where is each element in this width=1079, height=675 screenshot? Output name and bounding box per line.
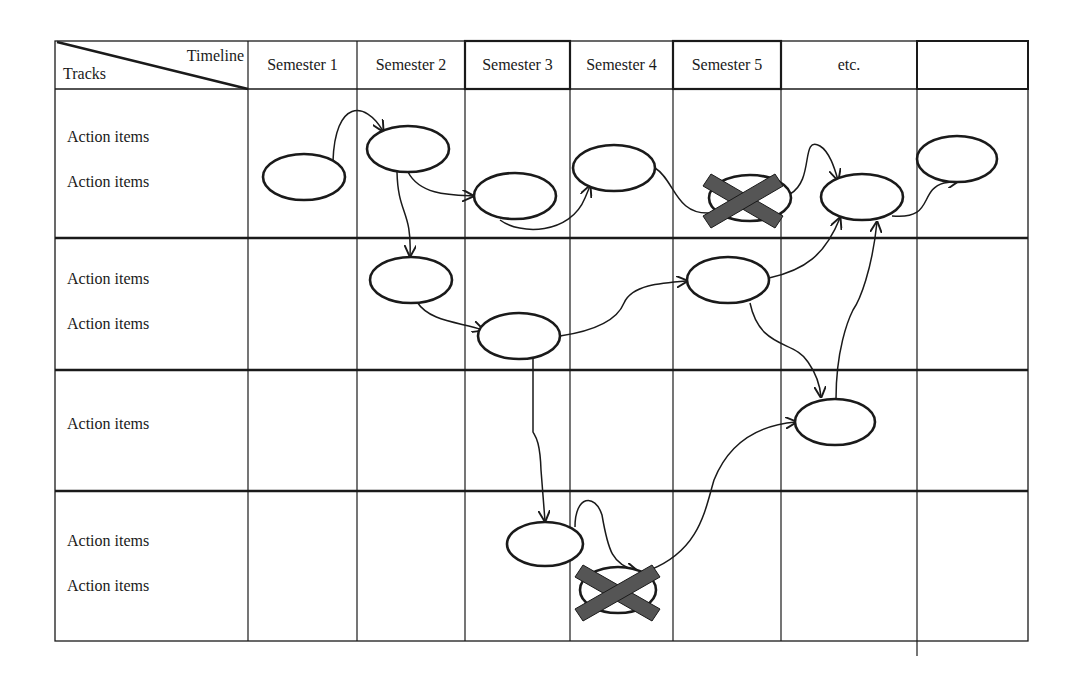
track-2-label-1: Action items [67, 270, 149, 288]
tracks-axis-label: Tracks [63, 65, 106, 83]
track-4-label-1: Action items [67, 532, 149, 550]
column-header-etc: etc. [781, 41, 917, 89]
node-t1-s4[interactable] [573, 145, 655, 191]
track-3-label-cell: Action items [55, 370, 248, 491]
header-corner-cell: Timeline Tracks [55, 41, 248, 89]
column-header-blank [917, 41, 1028, 89]
track-4-label-cell: Action items Action items [55, 491, 248, 641]
timeline-axis-label: Timeline [187, 47, 244, 65]
track-1-label-2: Action items [67, 173, 149, 191]
node-t1-etc[interactable] [821, 174, 903, 220]
node-t1-s1[interactable] [263, 154, 345, 200]
track-2-label-cell: Action items Action items [55, 238, 248, 370]
column-header-semester-5: Semester 5 [673, 41, 781, 89]
track-2-label-2: Action items [67, 315, 149, 333]
node-t3-etc[interactable] [795, 399, 875, 445]
node-t2-s3[interactable] [478, 313, 560, 359]
track-4-label-2: Action items [67, 577, 149, 595]
column-header-semester-4: Semester 4 [570, 41, 673, 89]
node-t2-s2[interactable] [370, 257, 452, 303]
node-t1-s3[interactable] [474, 173, 556, 219]
node-t2-s5[interactable] [687, 257, 769, 303]
column-header-semester-3: Semester 3 [465, 41, 570, 89]
node-t1-s5-cancelled[interactable] [709, 175, 791, 221]
node-t1-s2[interactable] [367, 126, 449, 172]
node-t4-s3[interactable] [507, 522, 583, 566]
node-t1-last[interactable] [917, 136, 997, 182]
track-1-label-1: Action items [67, 128, 149, 146]
column-header-semester-1: Semester 1 [248, 41, 357, 89]
node-t4-s4-cancelled[interactable] [580, 567, 656, 613]
column-header-semester-2: Semester 2 [357, 41, 465, 89]
track-3-label-1: Action items [67, 415, 149, 433]
track-1-label-cell: Action items Action items [55, 89, 248, 238]
